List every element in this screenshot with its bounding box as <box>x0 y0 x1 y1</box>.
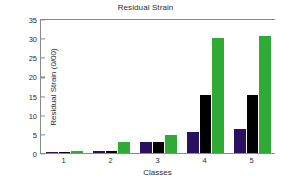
bar-group <box>135 20 182 153</box>
plot-area: Residual Strain (0/00) 05101520253035 <box>40 19 275 153</box>
y-tick-label: 20 <box>29 73 41 82</box>
x-tick-label: 2 <box>108 156 112 165</box>
y-tick-label: 30 <box>29 35 41 44</box>
x-tick-label: 3 <box>155 156 159 165</box>
bar-group <box>88 20 135 153</box>
bar-group <box>41 20 88 153</box>
bar <box>247 95 259 153</box>
bar-group <box>229 20 276 153</box>
bar <box>234 129 246 154</box>
y-tick-label: 35 <box>29 16 41 25</box>
y-tick-label: 25 <box>29 54 41 63</box>
y-tick-label: 10 <box>29 111 41 120</box>
y-tick-label: 15 <box>29 92 41 101</box>
x-tick-label: 5 <box>249 156 253 165</box>
bar <box>212 38 224 153</box>
chart-figure: Residual Strain Residual Strain (0/00) 0… <box>0 0 291 187</box>
bar <box>118 142 130 153</box>
bar <box>187 132 199 153</box>
bar <box>165 135 177 153</box>
bar <box>259 36 271 153</box>
x-axis-label: Classes <box>40 168 275 177</box>
bar-group <box>182 20 229 153</box>
y-tick-label: 5 <box>33 130 41 139</box>
x-tick-label: 1 <box>61 156 65 165</box>
chart-title: Residual Strain <box>0 3 291 12</box>
x-tick-label: 4 <box>202 156 206 165</box>
bar <box>140 142 152 153</box>
bar <box>153 142 165 153</box>
bar <box>200 95 212 153</box>
